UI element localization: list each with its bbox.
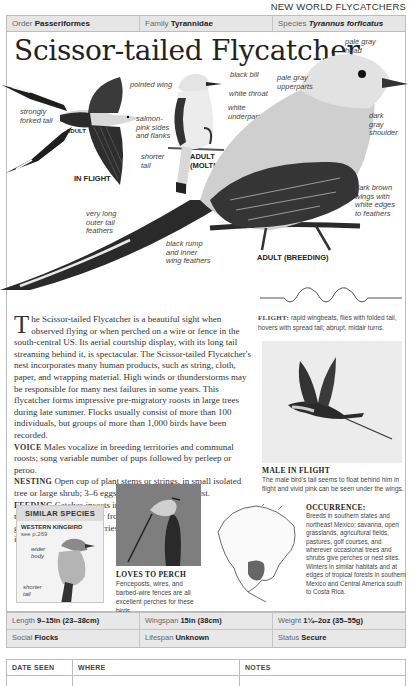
col-notes: NOTES xyxy=(240,660,405,675)
sighting-log-table: DATE SEEN WHERE NOTES xyxy=(6,659,406,686)
similar-species-heading: SIMILAR SPECIES xyxy=(17,506,103,521)
voice-paragraph: VOICE Males vocalize in breeding territo… xyxy=(14,442,252,477)
intro-paragraph: The Scissor-tailed Flycatcher is a beaut… xyxy=(14,314,252,442)
label-pale-gray-head: pale gray head xyxy=(345,38,376,55)
loves-to-perch-text: Fenceposts, wires, and barbed-wire fence… xyxy=(116,579,206,615)
label-pale-gray-upperparts: pale gray upperparts xyxy=(277,74,313,91)
log-entry-row xyxy=(7,676,405,686)
order-label: Order xyxy=(12,19,32,28)
stats-row: Length 9–15in (23–38cm) Wingspan 15in (3… xyxy=(7,613,405,630)
male-in-flight-text: The male bird's tail seems to float behi… xyxy=(262,475,407,493)
male-in-flight-title: MALE IN FLIGHT xyxy=(262,466,407,475)
weight-value: 1¼–2oz (35–55g) xyxy=(303,616,363,625)
section-header: NEW WORLD FLYCATCHERS xyxy=(271,1,406,12)
status-value: Secure xyxy=(301,633,326,642)
label-similar-shorter-tail: shorter tail xyxy=(23,584,42,598)
label-wider-body: wider body xyxy=(31,546,45,560)
dropcap: T xyxy=(14,315,29,335)
male-in-flight-photo xyxy=(262,341,402,463)
family-label: Family xyxy=(145,19,169,28)
wingspan-cell: Wingspan 15in (38cm) xyxy=(140,613,273,629)
species-value: Tyrannus forficatus xyxy=(309,19,383,28)
flight-label: FLIGHT: xyxy=(258,314,289,322)
status-cell: Status Secure xyxy=(273,630,405,647)
log-header-row: DATE SEEN WHERE NOTES xyxy=(7,660,405,676)
stats-table: Length 9–15in (23–38cm) Wingspan 15in (3… xyxy=(6,612,406,648)
length-cell: Length 9–15in (23–38cm) xyxy=(7,613,140,629)
breeding-range xyxy=(248,560,265,580)
stats-row: Social Flocks Lifespan Unknown Status Se… xyxy=(7,630,405,647)
weight-cell: Weight 1¼–2oz (35–55g) xyxy=(273,613,405,629)
notes-field[interactable] xyxy=(240,676,405,686)
wingspan-value: 15in (38cm) xyxy=(180,616,221,625)
length-value: 9–15in (23–38cm) xyxy=(37,616,99,625)
perched-bird-image xyxy=(116,484,201,566)
male-in-flight-caption: MALE IN FLIGHT The male bird's tail seem… xyxy=(262,466,407,493)
flight-description: FLIGHT: rapid wingbeats, flies with fold… xyxy=(258,313,404,332)
similar-species-box: SIMILAR SPECIES WESTERN KINGBIRD see p.2… xyxy=(16,505,104,603)
similar-species-name: WESTERN KINGBIRD xyxy=(21,524,82,530)
family-cell: Family Tyrannidae xyxy=(140,16,273,31)
order-cell: Order Passeriformes xyxy=(7,16,140,31)
lifespan-cell: Lifespan Unknown xyxy=(140,630,273,647)
label-black-rump: black rump and inner wing feathers xyxy=(166,240,211,266)
loves-to-perch-caption: LOVES TO PERCH Fenceposts, wires, and ba… xyxy=(116,570,206,615)
occurrence-section: OCCURRENCE: Breeds in southern states an… xyxy=(306,504,406,596)
col-date-seen: DATE SEEN xyxy=(7,660,73,675)
species-label: Species xyxy=(278,19,306,28)
social-cell: Social Flocks xyxy=(7,630,140,647)
occurrence-text: Breeds in southern states and northeast … xyxy=(306,512,406,596)
label-very-long-outer-tail: very long outer tail feathers xyxy=(86,210,116,236)
order-value: Passeriformes xyxy=(35,19,90,28)
loves-to-perch-photo xyxy=(116,484,201,566)
col-where: WHERE xyxy=(73,660,240,675)
western-kingbird-illustration xyxy=(47,536,99,603)
species-cell: Species Tyrannus forficatus xyxy=(273,16,405,31)
social-value: Flocks xyxy=(35,633,59,642)
family-value: Tyrannidae xyxy=(171,19,213,28)
flight-pattern-graphic xyxy=(258,284,404,308)
range-map xyxy=(208,502,304,606)
label-dark-brown-wings: dark brown wings with white edges to fea… xyxy=(355,184,395,219)
taxonomy-bar: Order Passeriformes Family Tyrannidae Sp… xyxy=(6,15,406,32)
date-seen-field[interactable] xyxy=(7,676,73,686)
lifespan-value: Unknown xyxy=(175,633,209,642)
similar-species-page-ref[interactable]: see p.269 xyxy=(21,531,47,537)
occurrence-title: OCCURRENCE: xyxy=(306,504,406,512)
label-dark-gray-shoulder: dark gray shoulder xyxy=(369,112,398,138)
flying-bird-image xyxy=(262,341,402,463)
caption-adult-breeding: ADULT (BREEDING) xyxy=(257,254,329,263)
where-field[interactable] xyxy=(73,676,240,686)
loves-to-perch-title: LOVES TO PERCH xyxy=(116,570,206,579)
